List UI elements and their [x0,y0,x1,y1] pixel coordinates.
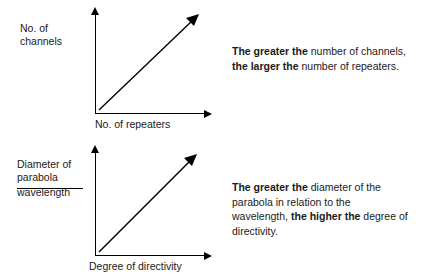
caption-parabola-directivity: The greater the diameter of the parabola… [232,180,408,238]
y-axis-label-line1: No. of [20,22,90,35]
chart-channels-repeaters: No. of channels No. of repeaters [0,0,225,135]
x-axis-label: Degree of directivity [89,260,182,273]
fraction-divider [17,188,83,189]
caption-bold-1: The greater the [232,181,308,193]
caption-bold-2: the larger the [232,60,299,72]
y-axis-label-line2: parabola [17,171,91,184]
block-parabola-directivity: Diameter of parabola wavelength Degree o… [0,138,422,279]
y-axis-label: Diameter of parabola wavelength [17,158,91,199]
caption-bold-1: The greater the [232,45,308,57]
y-axis-label-line1: Diameter of [17,158,91,171]
caption-bold-2: the higher the [291,210,360,222]
x-axis-arrow-icon [204,252,212,260]
caption-text-2: number of repeaters. [299,60,399,72]
y-axis-label-line2: channels [20,35,90,48]
trend-arrow-icon [95,146,203,256]
caption-text-1: number of channels, [308,45,406,57]
y-axis-label-line3: wavelength [17,184,91,199]
x-axis-label: No. of repeaters [95,118,170,131]
diagram-page: No. of channels No. of repeaters The gre… [0,0,422,279]
x-axis-arrow-icon [204,110,212,118]
y-axis-label: No. of channels [20,22,90,48]
chart-parabola-directivity: Diameter of parabola wavelength Degree o… [0,138,225,279]
block-channels-repeaters: No. of channels No. of repeaters The gre… [0,0,422,135]
trend-arrow-icon [95,8,205,114]
caption-channels-repeaters: The greater the number of channels, the … [232,44,408,73]
